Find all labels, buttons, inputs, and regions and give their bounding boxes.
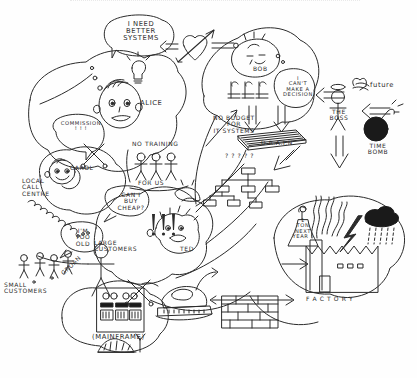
winged-future-icon [353, 78, 369, 90]
arrow-drain-down-left [274, 146, 300, 170]
org-chart-icon [204, 168, 279, 208]
alice-figure [90, 15, 173, 128]
coil-spring-icon [28, 200, 77, 234]
mainframe-cabinet-icon [97, 288, 144, 332]
small-customers-figures [19, 251, 73, 278]
no-training-figures [127, 150, 188, 191]
sketch-artwork [0, 0, 417, 378]
arrow-bob-to-drain [245, 106, 260, 132]
worried-face [175, 180, 200, 201]
drain-grate-icon [238, 130, 306, 150]
boss-figure [330, 84, 346, 130]
arrow-boss-to-bob [316, 88, 344, 102]
arrow-boss-down [331, 136, 348, 168]
arrow-to-chimney [282, 259, 308, 269]
mainframe-blob-outline [62, 281, 168, 352]
bomb-icon [364, 100, 403, 141]
money-pounds [228, 82, 268, 98]
bob-figure [232, 32, 315, 108]
brick-wall-icon [222, 296, 278, 328]
heart-pierced-by-arrow-icon [176, 30, 214, 62]
rain-cloud-icon [365, 206, 399, 244]
arrow-money-to-drain [274, 106, 289, 132]
rich-picture-canvas: I NEED BETTER SYSTEMS ALICE COMMISSION !… [0, 0, 417, 378]
arrow-bomb-to-boss [362, 104, 390, 118]
factory-building-icon [306, 246, 378, 292]
arrow-bob-to-heart [212, 43, 238, 48]
arrow-heart-to-alice [160, 41, 178, 52]
smoke-plume-icon [312, 196, 348, 238]
